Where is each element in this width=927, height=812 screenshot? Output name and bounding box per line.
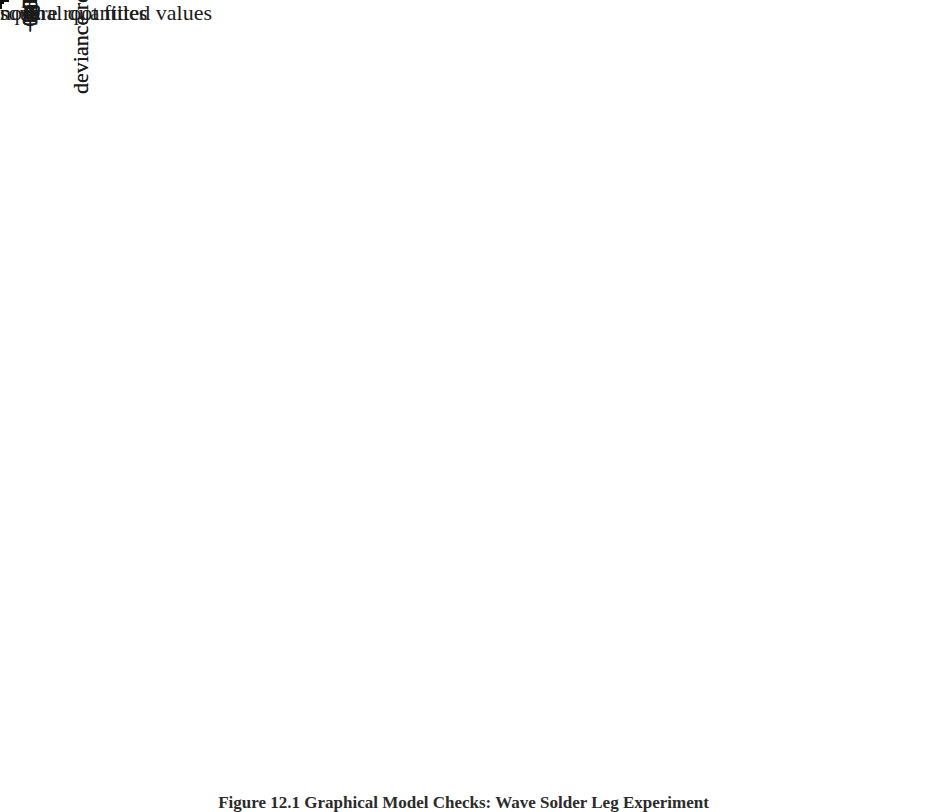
figure-container: 1.00.50.0−0.5−1.046810 deviance residual… <box>0 0 927 812</box>
figure-caption: Figure 12.1 Graphical Model Checks: Wave… <box>0 793 927 812</box>
